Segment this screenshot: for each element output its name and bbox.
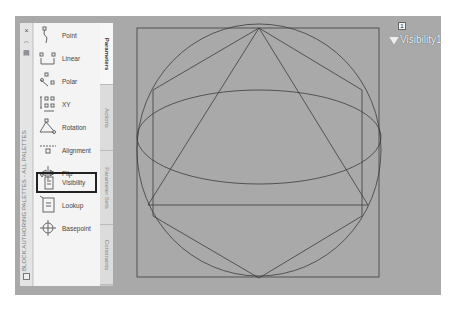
close-icon[interactable]: × [22,26,31,35]
palette-item-point[interactable]: Point [34,24,98,46]
palette-item-alignment[interactable]: Alignment [34,139,98,161]
properties-icon[interactable]: ▤ [22,48,31,57]
palette-menu-icon[interactable] [23,273,30,280]
autohide-icon[interactable]: ⇔ [22,37,31,46]
palette-tabs: Parameters Actions Parameter Sets Constr… [100,23,113,286]
polar-parameter-icon [38,71,58,91]
palette-item-xy[interactable]: XY [34,93,98,115]
parameter-list: Point Linear Polar XY Rotation Alignment… [34,23,100,286]
selection-highlight [36,172,97,193]
palette-item-polar[interactable]: Polar [34,70,98,92]
palette-item-visibility[interactable]: Visibility [34,171,98,193]
tab-parameter-sets[interactable]: Parameter Sets [100,151,113,225]
xy-parameter-icon [38,94,58,114]
palette-item-rotation[interactable]: Rotation [34,116,98,138]
palette-item-basepoint[interactable]: Basepoint [34,217,98,239]
point-parameter-icon [38,25,58,45]
tab-actions[interactable]: Actions [100,85,113,151]
alignment-parameter-icon [38,140,58,160]
block-authoring-palette: × ⇔ ▤ BLOCK AUTHORING PALETTES - ALL PAL… [20,23,113,286]
palette-title: BLOCK AUTHORING PALETTES - ALL PALETTES [21,137,33,271]
palette-title-bar[interactable]: × ⇔ ▤ BLOCK AUTHORING PALETTES - ALL PAL… [20,23,33,286]
rotation-parameter-icon [38,117,58,137]
lookup-parameter-icon [38,195,58,215]
visibility-count-badge: 1 [398,22,406,30]
tab-parameters[interactable]: Parameters [100,23,113,85]
visibility-dropdown-icon[interactable] [389,37,399,45]
visibility-parameter-label: Visibility1 [400,34,442,45]
linear-parameter-icon [38,48,58,68]
basepoint-parameter-icon [38,218,58,238]
palette-item-linear[interactable]: Linear [34,47,98,69]
visibility-parameter-grip[interactable]: 1 Visibility1 [389,28,442,45]
tab-constraints[interactable]: Constraints [100,225,113,285]
palette-item-lookup[interactable]: Lookup [34,194,98,216]
